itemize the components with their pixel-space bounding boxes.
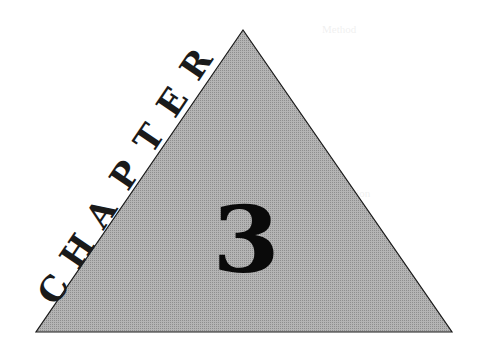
chapter-letter-h: H xyxy=(53,227,100,274)
chapter-letter-r: R xyxy=(172,40,219,87)
chapter-letter-c: C xyxy=(29,265,76,312)
chapter-title-page: Method Discussion C H A P T E R 3 xyxy=(0,0,482,356)
chapter-number: 3 xyxy=(206,190,286,290)
chapter-label: C H A P T E R xyxy=(0,0,482,356)
chapter-letter-a: A xyxy=(77,189,124,236)
chapter-letter-t: T xyxy=(125,114,172,161)
chapter-letter-p: P xyxy=(101,151,148,198)
chapter-letter-e: E xyxy=(148,78,195,125)
